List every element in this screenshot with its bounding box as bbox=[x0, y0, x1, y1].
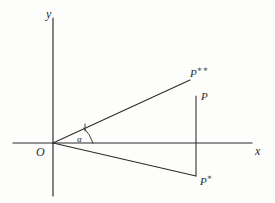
origin-label: O bbox=[36, 146, 45, 158]
point-p-star-base: P bbox=[200, 175, 207, 187]
ray-to-p-double-star bbox=[53, 80, 190, 143]
x-axis-label: x bbox=[255, 145, 260, 157]
point-label-p-star: P∗ bbox=[200, 174, 213, 187]
ray-to-p-star bbox=[53, 143, 196, 176]
point-label-p: P bbox=[201, 91, 208, 102]
diagram-canvas bbox=[0, 0, 275, 203]
angle-label-alpha: α bbox=[77, 135, 82, 144]
point-p-double-star-base: P bbox=[190, 67, 197, 79]
point-p-star-stars: ∗ bbox=[207, 173, 213, 182]
point-p-base: P bbox=[201, 90, 208, 102]
y-axis-label: y bbox=[46, 8, 51, 20]
point-label-p-double-star: P∗∗ bbox=[190, 66, 209, 79]
point-p-double-star-stars: ∗∗ bbox=[197, 65, 209, 74]
geometry-figure: y x O P P∗∗ P∗ α bbox=[0, 0, 275, 203]
